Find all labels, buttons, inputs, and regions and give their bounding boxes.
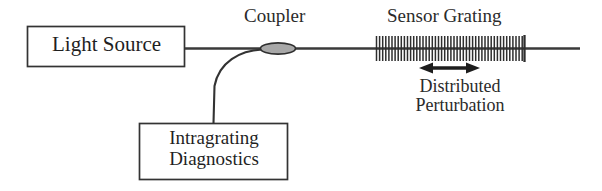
- diagnostics-label: Intragrating Diagnostics: [139, 128, 289, 170]
- coupler-label: Coupler: [244, 6, 305, 26]
- diagnostics-line-2: Diagnostics: [139, 149, 289, 170]
- branch-fiber: [214, 50, 263, 124]
- sensor-grating-label: Sensor Grating: [387, 6, 502, 26]
- figure-canvas: Light Source Coupler Sensor Grating Dist…: [0, 0, 602, 191]
- light-source-label: Light Source: [28, 33, 185, 56]
- diagnostics-line-1: Intragrating: [139, 128, 289, 149]
- perturbation-line-2: Perturbation: [395, 96, 525, 115]
- coupler-ellipse: [261, 43, 296, 54]
- distributed-perturbation-label: Distributed Perturbation: [395, 77, 525, 115]
- perturbation-line-1: Distributed: [395, 77, 525, 96]
- perturbation-arrow: [419, 63, 480, 74]
